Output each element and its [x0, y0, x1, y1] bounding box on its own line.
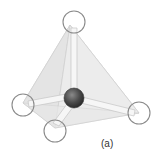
central-atom: [64, 88, 84, 108]
tetrahedron-diagram: [0, 0, 161, 158]
bond-top: [71, 28, 77, 90]
figure-label: (a): [101, 138, 113, 149]
